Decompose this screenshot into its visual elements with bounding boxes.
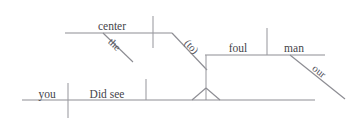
diagram-word-our: our [310,63,328,81]
diagram-stroke-pedestal-right [206,88,220,100]
sentence-diagram: centerthe(to)foulmanouryouDid see [0,0,349,122]
diagram-strokes [22,16,345,118]
diagram-word-center: center [98,20,126,32]
diagram-stroke-pedestal-left [192,88,206,100]
diagram-word-man: man [284,42,304,54]
diagram-word-did-see: Did see [90,88,125,100]
diagram-word-you: you [38,88,56,101]
diagram-canvas: centerthe(to)foulmanouryouDid see [0,0,349,122]
diagram-labels: centerthe(to)foulmanouryouDid see [38,20,328,101]
diagram-word-foul: foul [229,42,248,54]
diagram-word-to: (to) [182,37,201,57]
